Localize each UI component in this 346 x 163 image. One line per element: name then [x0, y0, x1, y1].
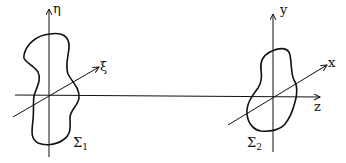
sigma-2-subscript: 2 — [256, 142, 262, 152]
diagram-canvas: η ξ Σ1 y x z Σ2 — [0, 0, 346, 163]
sigma-1-label: Σ1 — [73, 136, 88, 152]
eta-axis-label: η — [53, 2, 61, 15]
region-sigma-2 — [247, 49, 297, 132]
x-axis — [228, 65, 327, 125]
sigma-1-symbol: Σ — [73, 135, 82, 150]
region-sigma-1 — [24, 34, 79, 145]
sigma-2-label: Σ2 — [247, 136, 262, 152]
x-axis-label: x — [328, 56, 335, 69]
xi-axis-label: ξ — [100, 60, 107, 73]
y-axis-label: y — [280, 3, 287, 16]
xi-axis — [13, 67, 99, 117]
z-axis-label: z — [314, 100, 321, 113]
sigma-1-subscript: 1 — [82, 142, 88, 152]
diagram-graphics — [0, 0, 346, 163]
sigma-2-symbol: Σ — [247, 135, 256, 150]
